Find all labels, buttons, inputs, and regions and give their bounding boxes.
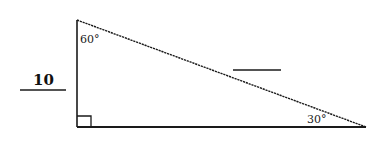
vertical-leg-value: 10 [33,71,54,89]
hypotenuse [77,20,366,127]
right-triangle-diagram: 60° 30° 10 [0,0,375,159]
angle-label-top: 60° [80,33,100,46]
right-angle-marker [77,116,91,127]
angle-label-right: 30° [307,113,327,126]
